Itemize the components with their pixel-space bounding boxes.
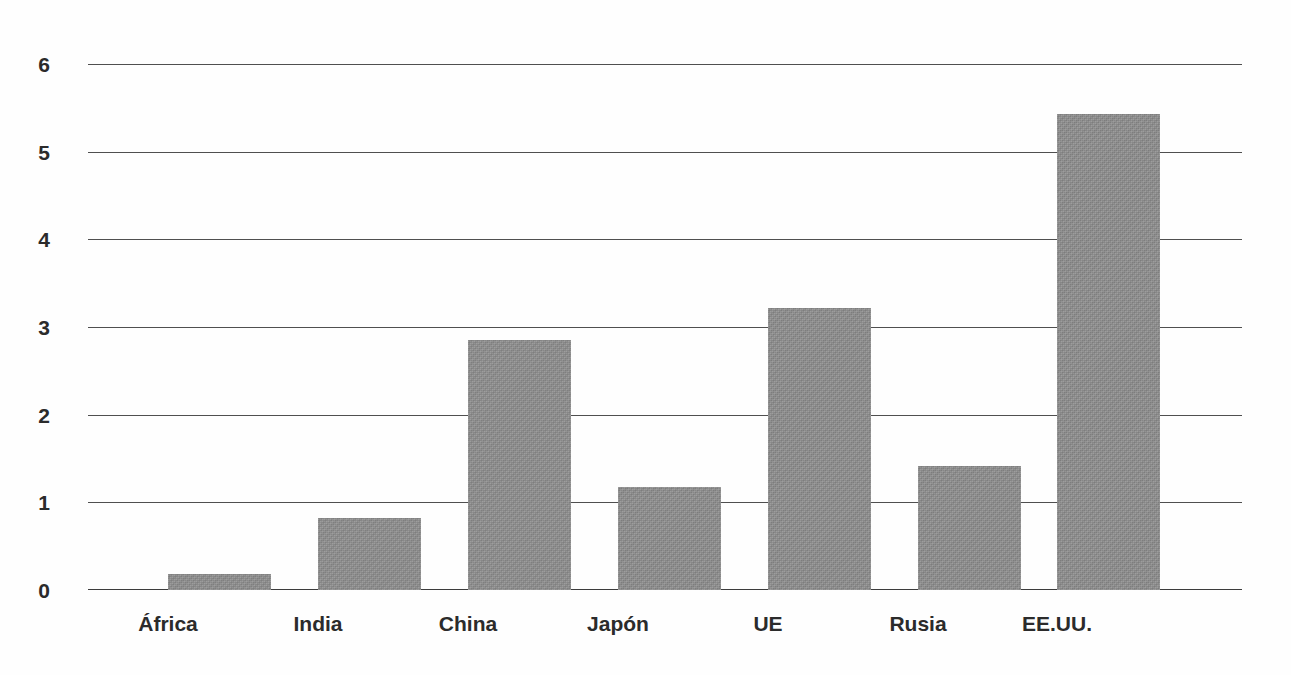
x-tick-label-eeuu: EE.UU. bbox=[972, 612, 1142, 635]
y-tick-label-2: 2 bbox=[10, 405, 50, 426]
y-tick-label-6: 6 bbox=[10, 54, 50, 75]
x-tick-label-india: India bbox=[233, 612, 403, 635]
y-tick-label-4: 4 bbox=[10, 229, 50, 250]
plot-area bbox=[88, 64, 1242, 590]
bars-layer bbox=[88, 64, 1242, 590]
y-tick-label-3: 3 bbox=[10, 317, 50, 338]
bar-china bbox=[468, 340, 571, 590]
x-tick-label-japon: Japón bbox=[533, 612, 703, 635]
bar-rusia bbox=[918, 466, 1021, 591]
y-tick-label-1: 1 bbox=[10, 492, 50, 513]
bar-india bbox=[318, 518, 421, 590]
bar-japon bbox=[618, 487, 721, 590]
x-tick-label-ue: UE bbox=[683, 612, 853, 635]
y-tick-label-5: 5 bbox=[10, 142, 50, 163]
x-tick-label-china: China bbox=[383, 612, 553, 635]
x-tick-label-africa: África bbox=[83, 612, 253, 635]
y-tick-label-0: 0 bbox=[10, 580, 50, 601]
bar-ue bbox=[768, 308, 871, 590]
bar-chart: 6 5 4 3 2 1 0 África India China Japón U… bbox=[0, 0, 1291, 675]
bar-eeuu bbox=[1057, 114, 1160, 590]
bar-africa bbox=[168, 574, 271, 590]
